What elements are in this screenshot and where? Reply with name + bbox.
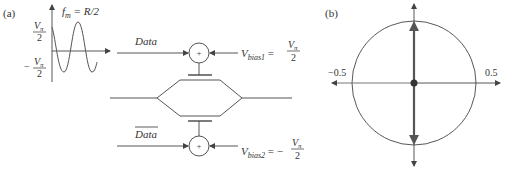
upper-waveguide-arm [157, 80, 242, 98]
data-label: Data [134, 35, 158, 47]
figure: (a) fm = R/2 Vπ 2 − Vπ 2 [0, 0, 518, 175]
bottom-amplitude-label: − Vπ 2 [24, 56, 46, 79]
svg-text:+: + [197, 142, 202, 151]
svg-text:+: + [197, 49, 202, 58]
svg-text:2: 2 [295, 150, 300, 161]
svg-text:2: 2 [37, 32, 42, 43]
lower-waveguide-arm [157, 98, 242, 116]
panel-b-label: (b) [325, 7, 338, 20]
svg-text:Vπ: Vπ [288, 39, 298, 52]
lower-summer: + Data Vbias2 = − Vπ 2 [117, 121, 304, 161]
bias2-label: Vbias2 = − Vπ 2 [241, 137, 304, 161]
x-right-label: 0.5 [485, 67, 498, 78]
origin-dot [411, 80, 418, 87]
freq-label: fm = R/2 [62, 5, 100, 20]
top-amplitude-label: Vπ 2 [33, 20, 46, 43]
sine-wave [52, 22, 97, 72]
data-bar-label: Data [134, 127, 158, 140]
panel-a: (a) fm = R/2 Vπ 2 − Vπ 2 [3, 5, 304, 161]
panel-a-label: (a) [3, 7, 16, 20]
svg-text:2: 2 [37, 68, 42, 79]
mach-zehnder-modulator [110, 75, 292, 121]
svg-text:Vbias1 =: Vbias1 = [241, 47, 274, 62]
upper-summer: + Data Vbias1 = Vπ 2 [117, 35, 300, 75]
svg-text:Vbias2 = −: Vbias2 = − [241, 145, 283, 160]
svg-text:Vπ: Vπ [292, 137, 302, 150]
svg-text:2: 2 [291, 52, 296, 63]
svg-text:Data: Data [134, 128, 158, 140]
bias1-label: Vbias1 = Vπ 2 [241, 39, 300, 63]
x-left-label: −0.5 [328, 67, 346, 78]
svg-text:−: − [24, 61, 30, 72]
waveform-plot: fm = R/2 Vπ 2 − Vπ 2 [24, 5, 110, 82]
panel-b: (b) −0.5 0.5 [325, 4, 500, 166]
